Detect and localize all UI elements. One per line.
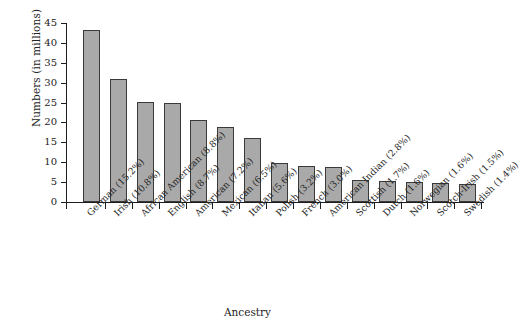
y-tick-label: 25	[44, 96, 57, 109]
y-tick-label: 35	[44, 56, 57, 69]
y-tick-40: 40	[61, 43, 66, 44]
x-axis-title: Ancestry	[0, 306, 495, 318]
y-tick-label: 10	[44, 155, 57, 168]
y-tick-5: 5	[61, 182, 66, 183]
y-axis-title: Numbers (in millions)	[30, 0, 42, 148]
y-tick-35: 35	[61, 63, 66, 64]
y-tick-label: 30	[44, 76, 57, 89]
y-tick-label: 45	[44, 16, 57, 29]
y-tick-10: 10	[61, 162, 66, 163]
y-axis-line	[66, 23, 67, 202]
y-tick-label: 5	[51, 175, 57, 188]
x-tick-origin	[66, 203, 67, 209]
y-tick-25: 25	[61, 103, 66, 104]
y-tick-label: 0	[51, 195, 57, 208]
y-tick-label: 40	[44, 36, 57, 49]
y-tick-30: 30	[61, 83, 66, 84]
y-tick-15: 15	[61, 142, 66, 143]
y-tick-label: 15	[44, 135, 57, 148]
y-tick-label: 20	[44, 115, 57, 128]
y-tick-45: 45	[61, 23, 66, 24]
y-tick-20: 20	[61, 122, 66, 123]
bar	[83, 30, 100, 202]
